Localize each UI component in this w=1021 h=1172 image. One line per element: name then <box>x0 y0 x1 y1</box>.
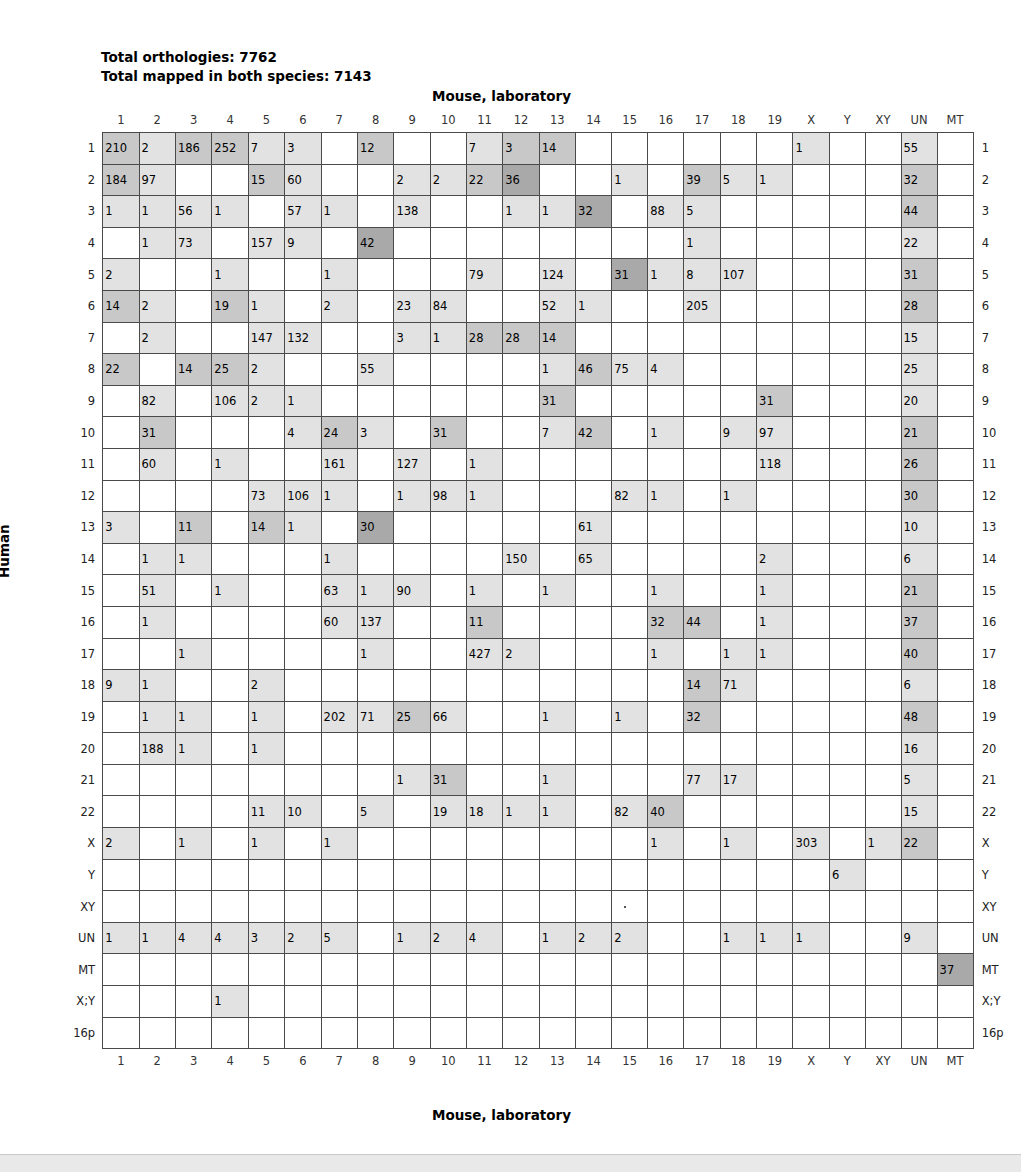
matrix-cell-22-9 <box>394 796 430 828</box>
matrix-cell-5-MT <box>937 259 973 291</box>
matrix-cell-20-11 <box>466 733 502 765</box>
matrix-cell-5-9 <box>394 259 430 291</box>
matrix-cell-13-19 <box>757 512 793 544</box>
matrix-cell-5-4: 1 <box>212 259 248 291</box>
matrix-cell-11-3 <box>175 448 211 480</box>
matrix-row: 1160116112711182611 <box>56 448 1021 480</box>
matrix-cell-3-16: 88 <box>648 196 684 228</box>
matrix-cell-10-8: 3 <box>357 417 393 449</box>
corner-spacer <box>56 1049 103 1074</box>
row-header-right-19: 19 <box>973 701 1021 733</box>
matrix-cell-16-10 <box>430 606 466 638</box>
matrix-cell-15-9: 90 <box>394 575 430 607</box>
matrix-cell-12-7: 1 <box>321 480 357 512</box>
matrix-cell-4-3: 73 <box>175 227 211 259</box>
matrix-cell-7-3 <box>175 322 211 354</box>
left-axis-title: Human <box>0 524 12 578</box>
row-header-right-9: 9 <box>973 385 1021 417</box>
matrix-cell-5-X <box>793 259 829 291</box>
matrix-row: 982106213131209 <box>56 385 1021 417</box>
matrix-cell-15-19: 1 <box>757 575 793 607</box>
matrix-cell-MT-6 <box>285 954 321 986</box>
matrix-cell-8-10 <box>430 354 466 386</box>
matrix-cell-1-X: 1 <box>793 133 829 165</box>
row-header-right-13: 13 <box>973 512 1021 544</box>
matrix-cell-18-19 <box>757 670 793 702</box>
matrix-cell-Y-7 <box>321 859 357 891</box>
matrix-cell-1-18 <box>720 133 756 165</box>
matrix-cell-8-MT <box>937 354 973 386</box>
matrix-cell-13-UN: 10 <box>901 512 937 544</box>
matrix-cell-MT-10 <box>430 954 466 986</box>
column-header-X: X <box>793 108 829 133</box>
column-header-UN: UN <box>901 1049 937 1074</box>
matrix-cell-10-1 <box>103 417 139 449</box>
matrix-cell-XY-12 <box>503 891 539 923</box>
matrix-cell-18-12 <box>503 670 539 702</box>
matrix-cell-12-19 <box>757 480 793 512</box>
column-header-3: 3 <box>175 1049 211 1074</box>
matrix-cell-1-12: 3 <box>503 133 539 165</box>
matrix-cell-UN-12 <box>503 922 539 954</box>
row-header-right-21: 21 <box>973 764 1021 796</box>
matrix-cell-UN-8 <box>357 922 393 954</box>
matrix-cell-10-19: 97 <box>757 417 793 449</box>
matrix-cell-6-4: 19 <box>212 290 248 322</box>
matrix-cell-18-5: 2 <box>248 670 284 702</box>
row-header-right-5: 5 <box>973 259 1021 291</box>
matrix-cell-15-10 <box>430 575 466 607</box>
row-header-left-21: 21 <box>56 764 103 796</box>
matrix-cell-4-16 <box>648 227 684 259</box>
matrix-cell-3-X <box>793 196 829 228</box>
matrix-cell-19-9: 25 <box>394 701 430 733</box>
matrix-cell-8-XY <box>865 354 901 386</box>
matrix-cell-7-Y <box>829 322 865 354</box>
matrix-cell-18-7 <box>321 670 357 702</box>
row-header-right-14: 14 <box>973 543 1021 575</box>
matrix-cell-MT-19 <box>757 954 793 986</box>
matrix-cell-Y-19 <box>757 859 793 891</box>
matrix-cell-19-15: 1 <box>612 701 648 733</box>
matrix-cell-19-MT <box>937 701 973 733</box>
matrix-cell-16-5 <box>248 606 284 638</box>
matrix-cell-UN-4: 4 <box>212 922 248 954</box>
matrix-cell-9-12 <box>503 385 539 417</box>
matrix-cell-UN-15: 2 <box>612 922 648 954</box>
matrix-cell-12-XY <box>865 480 901 512</box>
matrix-cell-XY-14 <box>576 891 612 923</box>
matrix-row: XYXY <box>56 891 1021 923</box>
matrix-cell-5-1: 2 <box>103 259 139 291</box>
matrix-cell-22-7 <box>321 796 357 828</box>
matrix-cell-12-13 <box>539 480 575 512</box>
matrix-cell-Y-12 <box>503 859 539 891</box>
matrix-cell-21-MT <box>937 764 973 796</box>
matrix-cell-19-Y <box>829 701 865 733</box>
matrix-cell-4-19 <box>757 227 793 259</box>
matrix-row: 8221425255146754258 <box>56 354 1021 386</box>
matrix-cell-X-10 <box>430 828 466 860</box>
matrix-row: 3115615711381132885443 <box>56 196 1021 228</box>
matrix-cell-9-19: 31 <box>757 385 793 417</box>
matrix-cell-9-X <box>793 385 829 417</box>
matrix-cell-X;Y-2 <box>139 986 175 1018</box>
matrix-cell-13-2 <box>139 512 175 544</box>
matrix-cell-17-19: 1 <box>757 638 793 670</box>
matrix-cell-22-19 <box>757 796 793 828</box>
matrix-cell-17-MT <box>937 638 973 670</box>
matrix-cell-19-6 <box>285 701 321 733</box>
corner-spacer-right <box>973 1049 1021 1074</box>
matrix-cell-1-3: 186 <box>175 133 211 165</box>
matrix-cell-20-16 <box>648 733 684 765</box>
column-header-2: 2 <box>139 108 175 133</box>
heatmap-matrix-container: 12345678910111213141516171819XYXYUNMT 12… <box>56 108 1021 1073</box>
column-header-7: 7 <box>321 1049 357 1074</box>
matrix-cell-19-XY <box>865 701 901 733</box>
row-header-right-17: 17 <box>973 638 1021 670</box>
matrix-cell-UN-XY <box>865 922 901 954</box>
matrix-cell-2-15: 1 <box>612 164 648 196</box>
row-header-right-MT: MT <box>973 954 1021 986</box>
matrix-cell-X-2 <box>139 828 175 860</box>
matrix-cell-20-17 <box>684 733 720 765</box>
matrix-cell-4-UN: 22 <box>901 227 937 259</box>
matrix-cell-6-1: 14 <box>103 290 139 322</box>
